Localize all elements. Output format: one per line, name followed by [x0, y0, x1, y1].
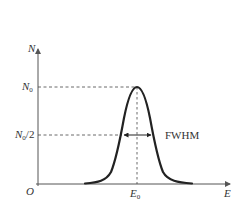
y-axis-label: N	[28, 43, 35, 54]
origin-label-text: O	[26, 185, 34, 197]
fwhm-text: FWHM	[165, 129, 199, 141]
e0-sub: 0	[137, 193, 141, 201]
e0-main: E	[130, 187, 137, 199]
x-axis-label: E	[224, 188, 231, 199]
x-axis-label-text: E	[224, 187, 231, 199]
half-max-suffix: /2	[26, 128, 35, 140]
n0-tick-label: N0	[22, 81, 33, 94]
y-axis-label-text: N	[28, 42, 35, 54]
n0-sub: 0	[29, 86, 33, 94]
half-max-tick-label: N0/2	[15, 129, 34, 142]
origin-label: O	[26, 186, 34, 197]
fwhm-annotation: FWHM	[165, 130, 199, 141]
e0-tick-label: E0	[130, 188, 140, 201]
fwhm-diagram	[0, 0, 248, 216]
